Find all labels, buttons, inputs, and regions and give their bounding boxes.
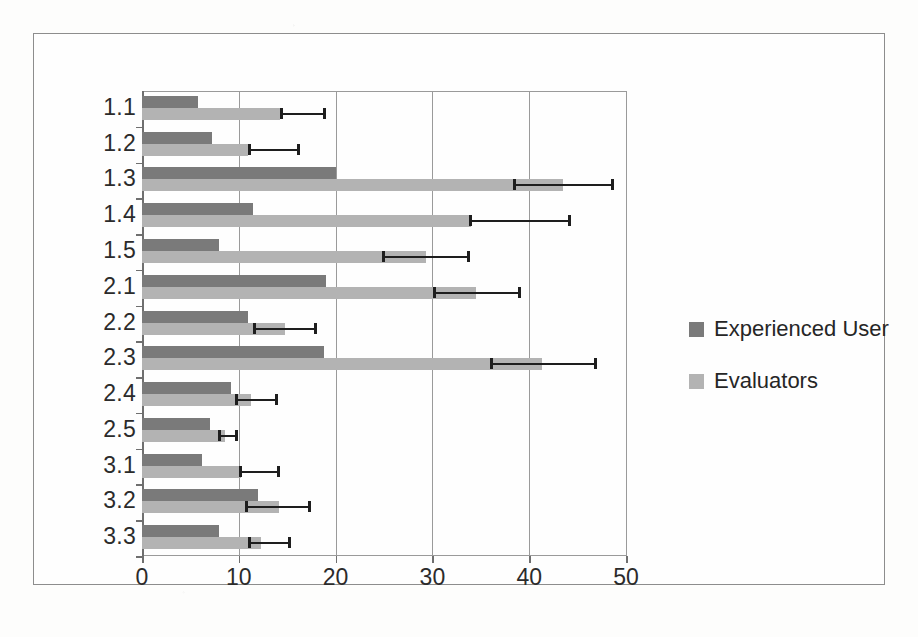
bar-evaluators-2.5 <box>142 430 225 442</box>
legend-label: Experienced User <box>714 316 889 342</box>
bar-experienced-user-1.5 <box>142 239 219 251</box>
y-tick-2.1 <box>136 306 142 308</box>
bar-evaluators-3.1 <box>142 466 241 478</box>
y-axis-label-3.2: 3.2 <box>76 487 136 514</box>
y-axis-label-3.3: 3.3 <box>76 523 136 550</box>
error-bar-2.4 <box>235 394 279 405</box>
error-bar-line <box>239 471 281 473</box>
x-tick-label-20: 20 <box>323 564 349 591</box>
bar-evaluators-1.2 <box>142 144 248 156</box>
gridline-30 <box>432 91 433 556</box>
error-bar-cap-high <box>314 323 317 334</box>
y-tick-1.2 <box>136 163 142 165</box>
error-bar-cap-low <box>513 179 516 190</box>
y-axis-label-1.2: 1.2 <box>76 130 136 157</box>
bar-experienced-user-2.4 <box>142 382 231 394</box>
error-bar-cap-high <box>275 394 278 405</box>
error-bar-cap-low <box>248 537 251 548</box>
error-bar-2.5 <box>218 430 237 441</box>
error-bar-line <box>490 363 596 365</box>
error-bar-cap-low <box>235 394 238 405</box>
error-bar-cap-high <box>568 215 571 226</box>
legend-swatch-icon <box>689 374 704 389</box>
error-bar-cap-low <box>469 215 472 226</box>
y-axis-label-2.4: 2.4 <box>76 380 136 407</box>
error-bar-line <box>245 506 312 508</box>
error-bar-line <box>280 113 325 115</box>
x-tick-40 <box>529 556 531 563</box>
y-tick-2.3 <box>136 377 142 379</box>
plot-area <box>142 91 626 556</box>
error-bar-1.5 <box>382 251 470 262</box>
x-tick-50 <box>626 556 628 563</box>
legend-label: Evaluators <box>714 368 818 394</box>
bar-experienced-user-2.5 <box>142 418 210 430</box>
error-bar-cap-high <box>277 466 280 477</box>
error-bar-cap-high <box>297 144 300 155</box>
bar-experienced-user-1.1 <box>142 96 198 108</box>
bar-evaluators-1.1 <box>142 108 280 120</box>
error-bar-cap-low <box>245 501 248 512</box>
error-bar-1.2 <box>248 144 299 155</box>
legend-item-evaluators: Evaluators <box>689 368 899 394</box>
legend-swatch-icon <box>689 322 704 337</box>
y-axis-label-2.3: 2.3 <box>76 344 136 371</box>
error-bar-cap-low <box>382 251 385 262</box>
y-axis-label-1.5: 1.5 <box>76 237 136 264</box>
y-tick-1.4 <box>136 234 142 236</box>
bar-evaluators-1.4 <box>142 215 471 227</box>
y-tick-2.4 <box>136 413 142 415</box>
x-tick-label-40: 40 <box>516 564 542 591</box>
gridline-20 <box>336 91 337 556</box>
bar-evaluators-3.3 <box>142 537 261 549</box>
error-bar-cap-high <box>323 108 326 119</box>
error-bar-1.3 <box>513 179 615 190</box>
x-tick-30 <box>432 556 434 563</box>
error-bar-3.1 <box>239 466 281 477</box>
error-bar-cap-high <box>594 358 597 369</box>
gridline-40 <box>529 91 530 556</box>
error-bar-1.4 <box>469 215 571 226</box>
y-axis-label-2.5: 2.5 <box>76 416 136 443</box>
y-tick-1.5 <box>136 270 142 272</box>
y-axis-category-labels: 1.11.21.31.41.52.12.22.32.42.53.13.23.3 <box>72 91 136 556</box>
error-bar-cap-high <box>288 537 291 548</box>
bar-experienced-user-2.1 <box>142 275 326 287</box>
error-bar-line <box>469 220 571 222</box>
error-bar-2.1 <box>433 287 521 298</box>
error-bar-cap-high <box>611 179 614 190</box>
error-bar-cap-low <box>433 287 436 298</box>
plot-top-border <box>142 91 626 92</box>
chart-legend: Experienced UserEvaluators <box>689 316 899 420</box>
bar-experienced-user-1.2 <box>142 132 212 144</box>
y-tick-1.3 <box>136 198 142 200</box>
y-axis-label-3.1: 3.1 <box>76 452 136 479</box>
error-bar-cap-high <box>308 501 311 512</box>
error-bar-line <box>248 149 299 151</box>
bar-experienced-user-3.3 <box>142 525 219 537</box>
y-tick-1.1 <box>136 127 142 129</box>
x-tick-label-0: 0 <box>136 564 149 591</box>
bar-experienced-user-3.1 <box>142 454 202 466</box>
error-bar-cap-low <box>253 323 256 334</box>
error-bar-2.2 <box>253 323 317 334</box>
error-bar-3.3 <box>248 537 291 548</box>
y-tick-2.5 <box>136 449 142 451</box>
bar-evaluators-2.1 <box>142 287 476 299</box>
bar-evaluators-1.3 <box>142 179 563 191</box>
error-bar-cap-high <box>467 251 470 262</box>
y-axis-label-2.2: 2.2 <box>76 309 136 336</box>
x-tick-label-30: 30 <box>420 564 446 591</box>
error-bar-line <box>513 184 615 186</box>
error-bar-line <box>382 256 470 258</box>
error-bar-1.1 <box>280 108 325 119</box>
error-bar-cap-high <box>235 430 238 441</box>
plot-bottom-border <box>142 555 626 556</box>
bar-evaluators-2.3 <box>142 358 542 370</box>
y-axis-label-1.1: 1.1 <box>76 94 136 121</box>
y-axis-label-2.1: 2.1 <box>76 273 136 300</box>
x-tick-20 <box>336 556 338 563</box>
x-tick-0 <box>142 556 144 563</box>
error-bar-line <box>248 542 291 544</box>
bar-experienced-user-2.3 <box>142 346 324 358</box>
